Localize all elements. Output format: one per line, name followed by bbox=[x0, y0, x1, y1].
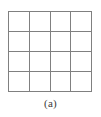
grid-cell bbox=[71, 72, 92, 92]
grid-diagram bbox=[8, 11, 92, 92]
grid-cell bbox=[30, 12, 51, 32]
grid-cell bbox=[30, 72, 51, 92]
grid-cell bbox=[9, 52, 30, 72]
grid-cell bbox=[9, 72, 30, 92]
grid-cell bbox=[9, 12, 30, 32]
grid-cell bbox=[9, 32, 30, 52]
figure-caption: (a) bbox=[0, 97, 101, 110]
grid-cell bbox=[51, 52, 72, 72]
grid-cell bbox=[71, 32, 92, 52]
grid-cell bbox=[51, 32, 72, 52]
grid-cell bbox=[71, 12, 92, 32]
figure-panel: (a) bbox=[0, 0, 101, 117]
grid-cell bbox=[51, 12, 72, 32]
grid-cell bbox=[51, 72, 72, 92]
grid-cell bbox=[30, 52, 51, 72]
grid-cell bbox=[71, 52, 92, 72]
grid-cell bbox=[30, 32, 51, 52]
